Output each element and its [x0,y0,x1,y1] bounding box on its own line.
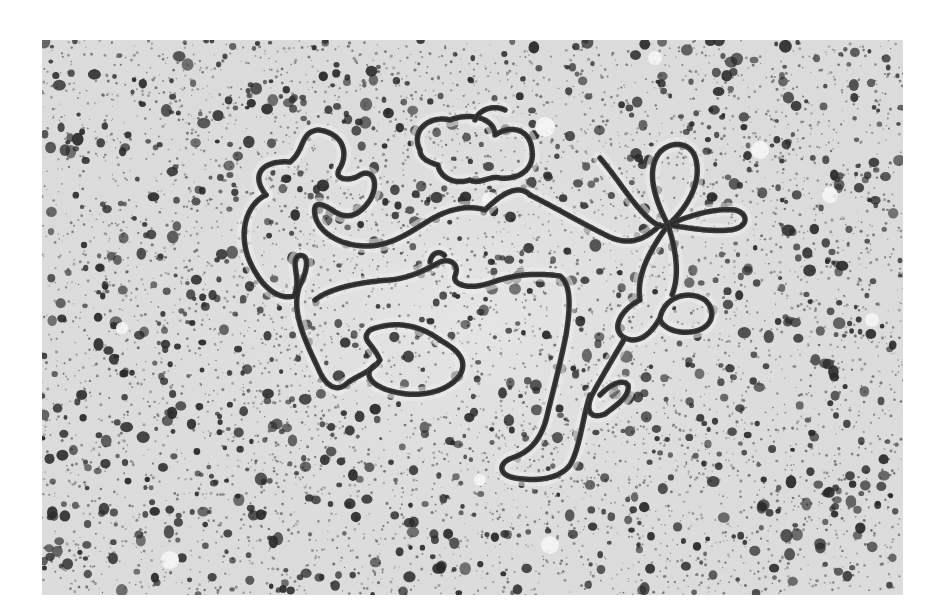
micrograph-canvas [42,40,903,595]
micrograph-image [42,40,903,595]
